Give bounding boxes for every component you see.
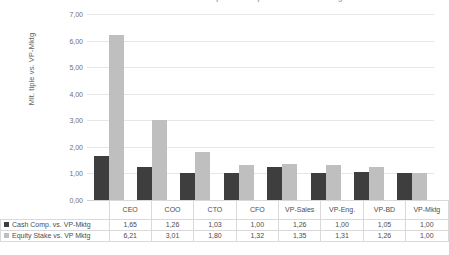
table-cell-equity: 1,35 [279,231,321,242]
bar-group [87,14,130,200]
table-corner-cell [1,201,110,220]
table-header-cell: CFO [236,201,278,220]
table-header-cell: CEO [109,201,151,220]
table-cell-cash: 1,00 [406,220,448,231]
legend-swatch-cash-icon [4,222,9,227]
legend-swatch-equity-icon [4,233,9,238]
table-cell-cash: 1,00 [321,220,363,231]
bar-group [347,14,390,200]
bar-equity[interactable] [282,164,297,200]
plot-area: 7,006,005,004,003,002,001,000,00 [87,14,434,200]
table-row-equity: Equity Stake vs. VP Mktg 6,213,011,801,3… [1,231,449,242]
table-cell-equity: 1,32 [236,231,278,242]
table-cell-cash: 1,26 [279,220,321,231]
legend-label-equity: Equity Stake vs. VP Mktg [12,233,90,240]
table-cell-cash: 1,65 [109,220,151,231]
table-cell-cash: 1,05 [363,220,405,231]
bar-cash[interactable] [224,173,239,200]
table-cell-equity: 3,01 [151,231,193,242]
table-cell-equity: 1,26 [363,231,405,242]
table-header-cell: VP-Eng. [321,201,363,220]
y-axis-tick-label: 2,00 [69,143,83,150]
bar-group [217,14,260,200]
table-cell-equity: 1,31 [321,231,363,242]
bar-group [174,14,217,200]
legend-label-cash: Cash Comp. vs. VP-Mktg [12,222,91,229]
table-cell-equity: 1,80 [194,231,236,242]
y-axis-tick-label: 7,00 [69,11,83,18]
bar-group [261,14,304,200]
table-header-cell: VP-BD [363,201,405,220]
legend-item-equity[interactable]: Equity Stake vs. VP Mktg [1,231,110,242]
table-header-row: CEOCOOCTOCFOVP-SalesVP-Eng.VP-BDVP-Mktg [1,201,449,220]
bar-cash[interactable] [311,173,326,200]
table-row-cash: Cash Comp. vs. VP-Mktg 1,651,261,031,001… [1,220,449,231]
bar-equity[interactable] [109,35,124,200]
bars-layer [87,14,434,200]
table-header-cell: COO [151,201,193,220]
data-table: CEOCOOCTOCFOVP-SalesVP-Eng.VP-BDVP-Mktg … [0,200,449,242]
table-cell-cash: 1,03 [194,220,236,231]
bar-cash[interactable] [397,173,412,200]
y-axis-title: Mlt. tiple vs. VP-Mktg [27,14,41,124]
bar-cash[interactable] [180,173,195,200]
chart-title: Multiple of Compensation vs. VP-Mktg [105,0,435,3]
bar-equity[interactable] [369,167,384,200]
table-cell-equity: 6,21 [109,231,151,242]
table-header-cell: VP-Sales [279,201,321,220]
table-header-cell: VP-Mktg [406,201,448,220]
bar-cash[interactable] [94,156,109,200]
bar-equity[interactable] [195,152,210,200]
y-axis-tick-label: 3,00 [69,117,83,124]
bar-equity[interactable] [152,120,167,200]
bar-equity[interactable] [239,165,254,200]
bar-equity[interactable] [326,165,341,200]
table-cell-cash: 1,00 [236,220,278,231]
bar-cash[interactable] [137,167,152,200]
y-axis-tick-label: 5,00 [69,64,83,71]
bar-equity[interactable] [412,173,427,200]
bar-group [391,14,434,200]
y-axis-tick-label: 6,00 [69,37,83,44]
y-axis-tick-label: 1,00 [69,170,83,177]
bar-group [304,14,347,200]
bar-cash[interactable] [267,167,282,200]
table-header-cell: CTO [194,201,236,220]
table-cell-equity: 1,00 [406,231,448,242]
y-axis-tick-label: 4,00 [69,90,83,97]
table-cell-cash: 1,26 [151,220,193,231]
bar-group [130,14,173,200]
bar-cash[interactable] [354,172,369,200]
legend-item-cash[interactable]: Cash Comp. vs. VP-Mktg [1,220,110,231]
